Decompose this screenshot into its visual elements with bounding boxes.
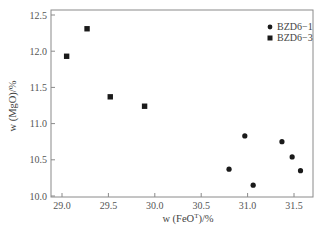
circle-marker	[298, 168, 303, 173]
square-marker	[64, 54, 69, 59]
x-tick-label: 31.0	[239, 200, 257, 211]
x-tick-label: 29.5	[100, 200, 118, 211]
plot-frame	[51, 10, 313, 197]
square-marker	[84, 26, 89, 31]
y-tick-label: 11.0	[30, 118, 47, 129]
circle-marker	[226, 167, 231, 172]
legend-label: BZD6−3	[277, 32, 313, 43]
y-tick-label: 10.0	[30, 191, 48, 202]
square-marker	[142, 104, 147, 109]
x-axis-ticks: 29.029.530.030.531.031.5	[53, 193, 303, 211]
x-tick-label: 31.5	[285, 200, 303, 211]
square-marker	[108, 94, 113, 99]
y-tick-label: 12.5	[30, 10, 48, 21]
y-tick-label: 10.5	[30, 154, 48, 165]
circle-marker	[279, 139, 284, 144]
x-tick-label: 29.0	[53, 200, 71, 211]
legend: BZD6−1BZD6−3	[268, 21, 313, 43]
y-tick-label: 11.5	[30, 82, 47, 93]
circle-marker	[251, 183, 256, 188]
circle-marker	[242, 133, 247, 138]
x-tick-label: 30.5	[192, 200, 210, 211]
x-tick-label: 30.0	[146, 200, 164, 211]
data-points	[64, 26, 303, 188]
plot-border	[51, 10, 313, 197]
x-axis-title: w (FeOT)/%	[162, 212, 213, 225]
legend-square-icon	[268, 36, 273, 41]
legend-label: BZD6−1	[277, 21, 313, 32]
legend-circle-icon	[268, 25, 273, 30]
scatter-chart: 29.029.530.030.531.031.5 10.010.511.011.…	[0, 0, 328, 237]
y-axis-title: w (MgO)/%	[7, 80, 19, 131]
circle-marker	[290, 154, 295, 159]
y-tick-label: 12.0	[30, 46, 48, 57]
